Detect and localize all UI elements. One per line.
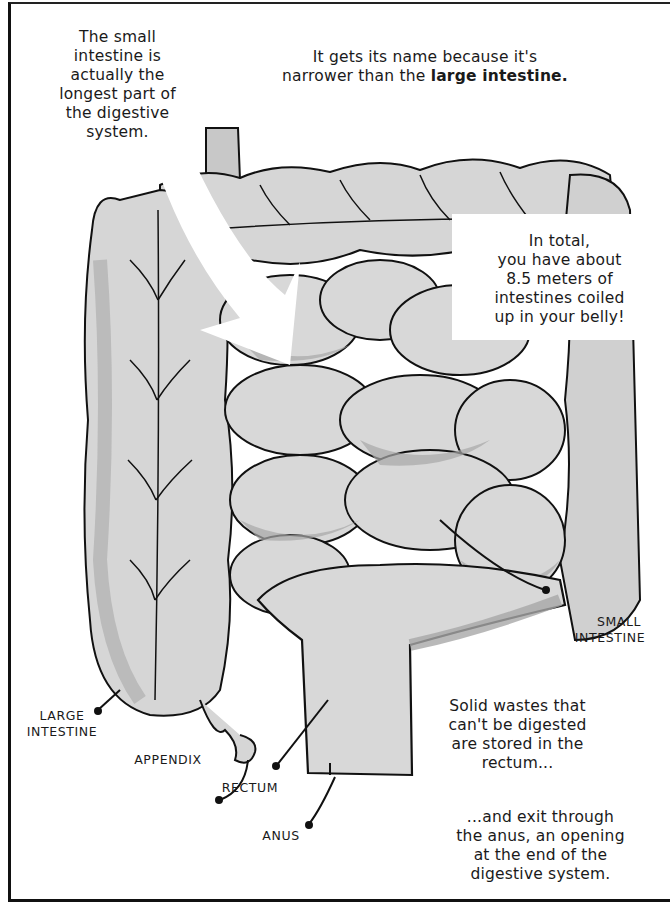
caption-line: system.	[40, 123, 195, 142]
label-line: INTESTINE	[560, 630, 660, 646]
caption-line: are stored in the	[430, 735, 605, 754]
caption-line: In total,	[462, 232, 657, 251]
caption-line: actually the	[40, 66, 195, 85]
label-line: LARGE	[22, 708, 102, 724]
caption-text: narrower than the	[282, 67, 431, 85]
caption-line: can't be digested	[430, 716, 605, 735]
caption-small-intestine-longest: The small intestine is actually the long…	[40, 28, 195, 142]
caption-line: ...and exit through	[448, 808, 633, 827]
caption-line: 8.5 meters of	[462, 270, 657, 289]
label-rectum: RECTUM	[218, 780, 282, 796]
caption-line: at the end of the	[448, 846, 633, 865]
appendix	[200, 700, 255, 763]
caption-name-origin: It gets its name because it's narrower t…	[270, 48, 580, 86]
caption-line: you have about	[462, 251, 657, 270]
caption-line: digestive system.	[448, 865, 633, 884]
caption-line: intestines coiled	[462, 289, 657, 308]
caption-line: longest part of	[40, 85, 195, 104]
caption-emphasis: large intestine.	[431, 67, 568, 85]
caption-anus-exit: ...and exit through the anus, an opening…	[448, 808, 633, 884]
caption-line: intestine is	[40, 47, 195, 66]
label-anus: ANUS	[258, 828, 304, 844]
label-line: INTESTINE	[22, 724, 102, 740]
caption-line: Solid wastes that	[430, 697, 605, 716]
caption-line: up in your belly!	[462, 308, 657, 327]
label-appendix: APPENDIX	[128, 752, 208, 768]
caption-total-length: In total, you have about 8.5 meters of i…	[462, 232, 657, 327]
label-small-intestine: SMALL INTESTINE	[560, 614, 660, 646]
caption-line: It gets its name because it's	[270, 48, 580, 67]
label-line: SMALL	[560, 614, 660, 630]
caption-line: the anus, an opening	[448, 827, 633, 846]
caption-rectum-storage: Solid wastes that can't be digested are …	[430, 697, 605, 773]
caption-line: narrower than the large intestine.	[270, 67, 580, 86]
caption-line: The small	[40, 28, 195, 47]
caption-line: the digestive	[40, 104, 195, 123]
label-large-intestine: LARGE INTESTINE	[22, 708, 102, 740]
caption-line: rectum...	[430, 754, 605, 773]
